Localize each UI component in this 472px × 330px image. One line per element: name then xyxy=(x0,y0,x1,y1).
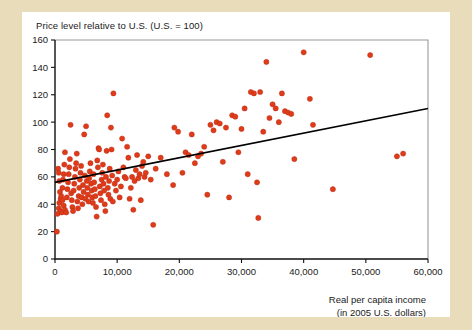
data-point xyxy=(105,185,110,190)
data-point xyxy=(158,155,163,160)
data-point xyxy=(394,154,399,159)
x-tick-label: 50,000 xyxy=(351,266,380,277)
y-tick-label: 0 xyxy=(43,253,48,264)
data-point xyxy=(95,158,100,163)
data-point xyxy=(54,229,59,234)
data-point xyxy=(245,172,250,177)
x-tick-label: 0 xyxy=(52,266,57,277)
data-point xyxy=(118,184,123,189)
data-point xyxy=(117,195,122,200)
data-point xyxy=(242,106,247,111)
data-point xyxy=(261,129,266,134)
data-point xyxy=(74,161,79,166)
data-point xyxy=(211,128,216,133)
data-point xyxy=(256,215,261,220)
data-point xyxy=(110,173,115,178)
data-point xyxy=(123,176,128,181)
data-point xyxy=(109,147,114,152)
data-point xyxy=(251,91,256,96)
data-point xyxy=(93,204,98,209)
data-point xyxy=(131,207,136,212)
x-axis-label-line1: Real per capita income xyxy=(329,294,426,305)
data-point xyxy=(94,214,99,219)
data-point xyxy=(276,120,281,125)
data-point xyxy=(92,187,97,192)
data-point xyxy=(217,121,222,126)
data-point xyxy=(146,154,151,159)
data-point xyxy=(202,144,207,149)
x-axis-label-line2: (in 2005 U.S. dollars) xyxy=(337,307,426,317)
data-point xyxy=(233,114,238,119)
data-point xyxy=(273,106,278,111)
data-point xyxy=(148,177,153,182)
data-point xyxy=(79,163,84,168)
data-point xyxy=(134,152,139,157)
figure-card: Price level relative to U.S. (U.S. = 100… xyxy=(22,12,450,317)
data-point xyxy=(153,166,158,171)
data-point xyxy=(205,192,210,197)
data-point xyxy=(292,156,297,161)
data-point xyxy=(67,156,72,161)
y-tick-label: 120 xyxy=(32,89,48,100)
data-point xyxy=(223,125,228,130)
x-tick-label: 20,000 xyxy=(165,266,194,277)
data-point xyxy=(115,177,120,182)
data-point xyxy=(97,147,102,152)
data-point xyxy=(310,122,315,127)
data-point xyxy=(75,206,80,211)
data-point xyxy=(267,115,272,120)
data-point xyxy=(72,181,77,186)
data-point xyxy=(113,188,118,193)
data-point xyxy=(60,185,65,190)
data-point xyxy=(120,136,125,141)
data-point xyxy=(126,155,131,160)
data-point xyxy=(71,188,76,193)
data-point xyxy=(82,132,87,137)
data-point xyxy=(67,165,72,170)
data-point xyxy=(64,210,69,215)
data-point xyxy=(127,196,132,201)
data-point xyxy=(236,150,241,155)
y-tick-label: 40 xyxy=(37,199,48,210)
data-point xyxy=(106,178,111,183)
y-tick-label: 160 xyxy=(32,34,48,45)
data-point xyxy=(289,111,294,116)
data-point xyxy=(171,182,176,187)
data-point xyxy=(73,166,78,171)
trend-line-layer xyxy=(55,108,428,182)
trend-line xyxy=(55,108,428,182)
data-point xyxy=(88,161,93,166)
x-tick-label: 30,000 xyxy=(227,266,256,277)
data-point xyxy=(56,170,61,175)
data-point xyxy=(307,96,312,101)
data-point xyxy=(264,59,269,64)
data-point xyxy=(102,202,107,207)
data-point xyxy=(92,180,97,185)
scatter-plot: 020406080100120140160010,00020,00030,000… xyxy=(22,12,450,317)
data-point xyxy=(104,148,109,153)
data-point xyxy=(192,161,197,166)
x-tick-label: 40,000 xyxy=(289,266,318,277)
data-point xyxy=(80,202,85,207)
data-point xyxy=(258,89,263,94)
data-point xyxy=(164,172,169,177)
data-point xyxy=(189,132,194,137)
data-point xyxy=(66,172,71,177)
data-point xyxy=(98,198,103,203)
data-point xyxy=(133,167,138,172)
data-point xyxy=(100,162,105,167)
data-point xyxy=(74,151,79,156)
data-point xyxy=(239,126,244,131)
data-point xyxy=(143,170,148,175)
y-tick-label: 60 xyxy=(37,171,48,182)
data-point xyxy=(105,113,110,118)
data-point xyxy=(110,199,115,204)
data-point xyxy=(175,129,180,134)
data-point xyxy=(70,208,75,213)
data-point xyxy=(254,180,259,185)
data-point xyxy=(62,162,67,167)
data-point xyxy=(95,165,100,170)
y-tick-label: 100 xyxy=(32,117,48,128)
data-point xyxy=(68,122,73,127)
data-point xyxy=(111,91,116,96)
